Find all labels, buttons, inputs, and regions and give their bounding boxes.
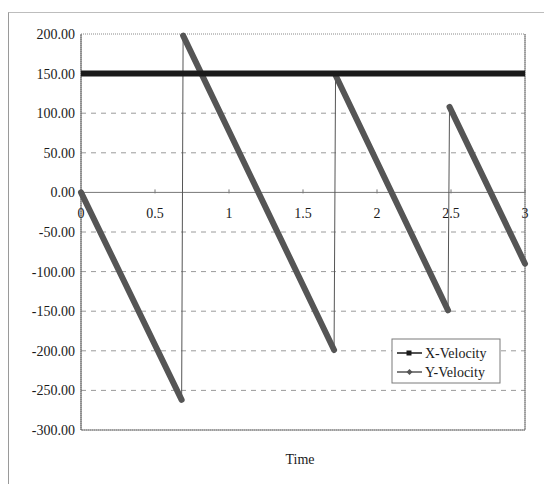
x-axis-title: Time xyxy=(285,452,314,467)
y-tick-label: -150.00 xyxy=(32,304,75,319)
legend: X-Velocity Y-Velocity xyxy=(392,339,500,383)
square-marker-icon xyxy=(407,351,412,356)
y-tick-label: -250.00 xyxy=(32,383,75,398)
y-tick-label: 100.00 xyxy=(37,106,76,121)
y-velocity-segment xyxy=(450,107,525,264)
y-tick-label: -100.00 xyxy=(32,265,75,280)
legend-label-y-velocity: Y-Velocity xyxy=(425,365,485,380)
x-tick-label: 3 xyxy=(522,206,529,221)
y-tick-label: -300.00 xyxy=(32,423,75,438)
y-tick-label: -200.00 xyxy=(32,344,75,359)
x-axis: 00.511.522.53 xyxy=(78,189,529,221)
y-velocity-jump-segment xyxy=(334,75,335,350)
y-tick-label: 150.00 xyxy=(37,67,76,82)
x-tick-label: 2 xyxy=(374,206,381,221)
y-velocity-jump-segment xyxy=(182,36,183,400)
y-axis: 200.00150.00100.0050.000.00-50.00-100.00… xyxy=(32,27,81,438)
y-tick-label: 50.00 xyxy=(44,146,76,161)
x-tick-label: 1.5 xyxy=(294,206,312,221)
x-tick-label: 0 xyxy=(78,206,85,221)
y-velocity-segment xyxy=(81,192,182,400)
legend-label-x-velocity: X-Velocity xyxy=(425,346,486,361)
y-tick-label: 200.00 xyxy=(37,27,76,42)
x-tick-label: 1 xyxy=(226,206,233,221)
x-tick-label: 2.5 xyxy=(442,206,460,221)
x-tick-label: 0.5 xyxy=(146,206,164,221)
y-tick-label: 0.00 xyxy=(51,185,76,200)
y-tick-label: -50.00 xyxy=(39,225,75,240)
